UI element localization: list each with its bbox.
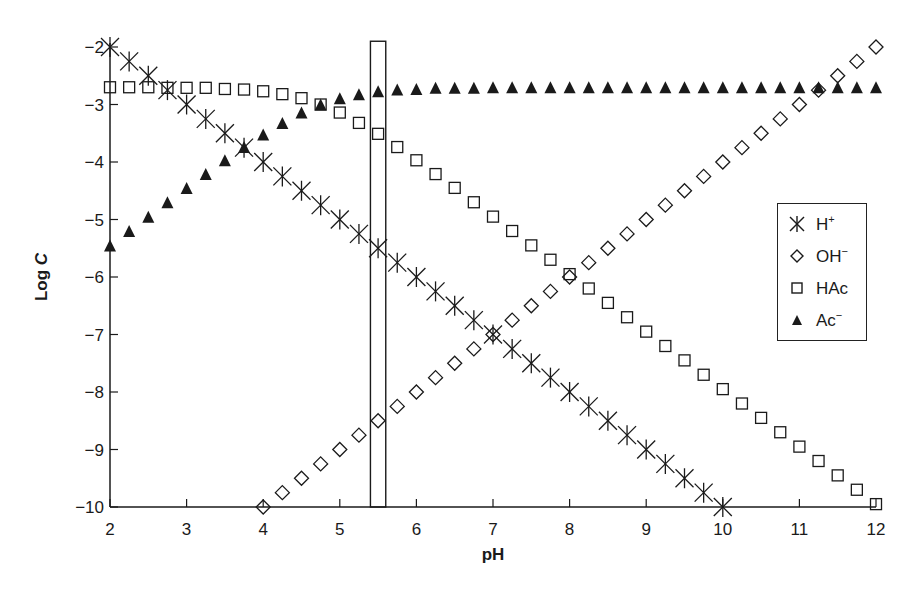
legend-label: Ac−: [816, 309, 842, 331]
x-tick-label: 3: [182, 520, 191, 539]
legend-item-hac: HAc: [788, 278, 848, 298]
series-h: [101, 37, 732, 517]
y-tick-label: −6: [85, 268, 104, 287]
axes: 23456789101112−2−3−4−5−6−7−8−9−10: [75, 38, 885, 539]
x-tick-label: 4: [258, 520, 267, 539]
square-marker-icon: [788, 279, 806, 297]
y-tick-label: −10: [75, 498, 104, 517]
x-tick-label: 11: [791, 520, 809, 539]
x-tick-label: 8: [565, 520, 574, 539]
x-tick-label: 2: [105, 520, 114, 539]
series-ac: [104, 81, 882, 251]
diamond-marker-icon: [788, 247, 806, 265]
x-tick-label: 9: [641, 520, 650, 539]
legend-item-ac-minus: Ac−: [788, 310, 842, 330]
y-tick-label: −5: [85, 211, 104, 230]
legend: H+ OH− HAc Ac−: [777, 203, 867, 341]
legend-label: HAc: [816, 277, 848, 299]
y-tick-label: −3: [85, 96, 104, 115]
legend-item-h-plus: H+: [788, 214, 835, 234]
y-tick-label: −2: [85, 38, 104, 57]
triangle-marker-icon: [788, 311, 806, 329]
x-axis-title: pH: [482, 545, 505, 564]
x-tick-label: 6: [412, 520, 421, 539]
x-tick-label: 7: [488, 520, 497, 539]
y-tick-label: −4: [85, 153, 104, 172]
legend-item-oh-minus: OH−: [788, 246, 848, 266]
y-tick-label: −9: [85, 441, 104, 460]
data-points: [101, 37, 883, 517]
x-tick-label: 5: [335, 520, 344, 539]
x-tick-label: 10: [713, 520, 732, 539]
highlight-rectangle: [370, 41, 385, 507]
x-tick-label: 12: [867, 520, 886, 539]
series-hac: [105, 82, 882, 510]
legend-label: H+: [816, 213, 835, 235]
y-axis-title: Log C: [32, 252, 51, 301]
asterisk-marker-icon: [788, 215, 806, 233]
y-tick-label: −7: [85, 326, 104, 345]
legend-label: OH−: [816, 245, 848, 267]
y-tick-label: −8: [85, 383, 104, 402]
